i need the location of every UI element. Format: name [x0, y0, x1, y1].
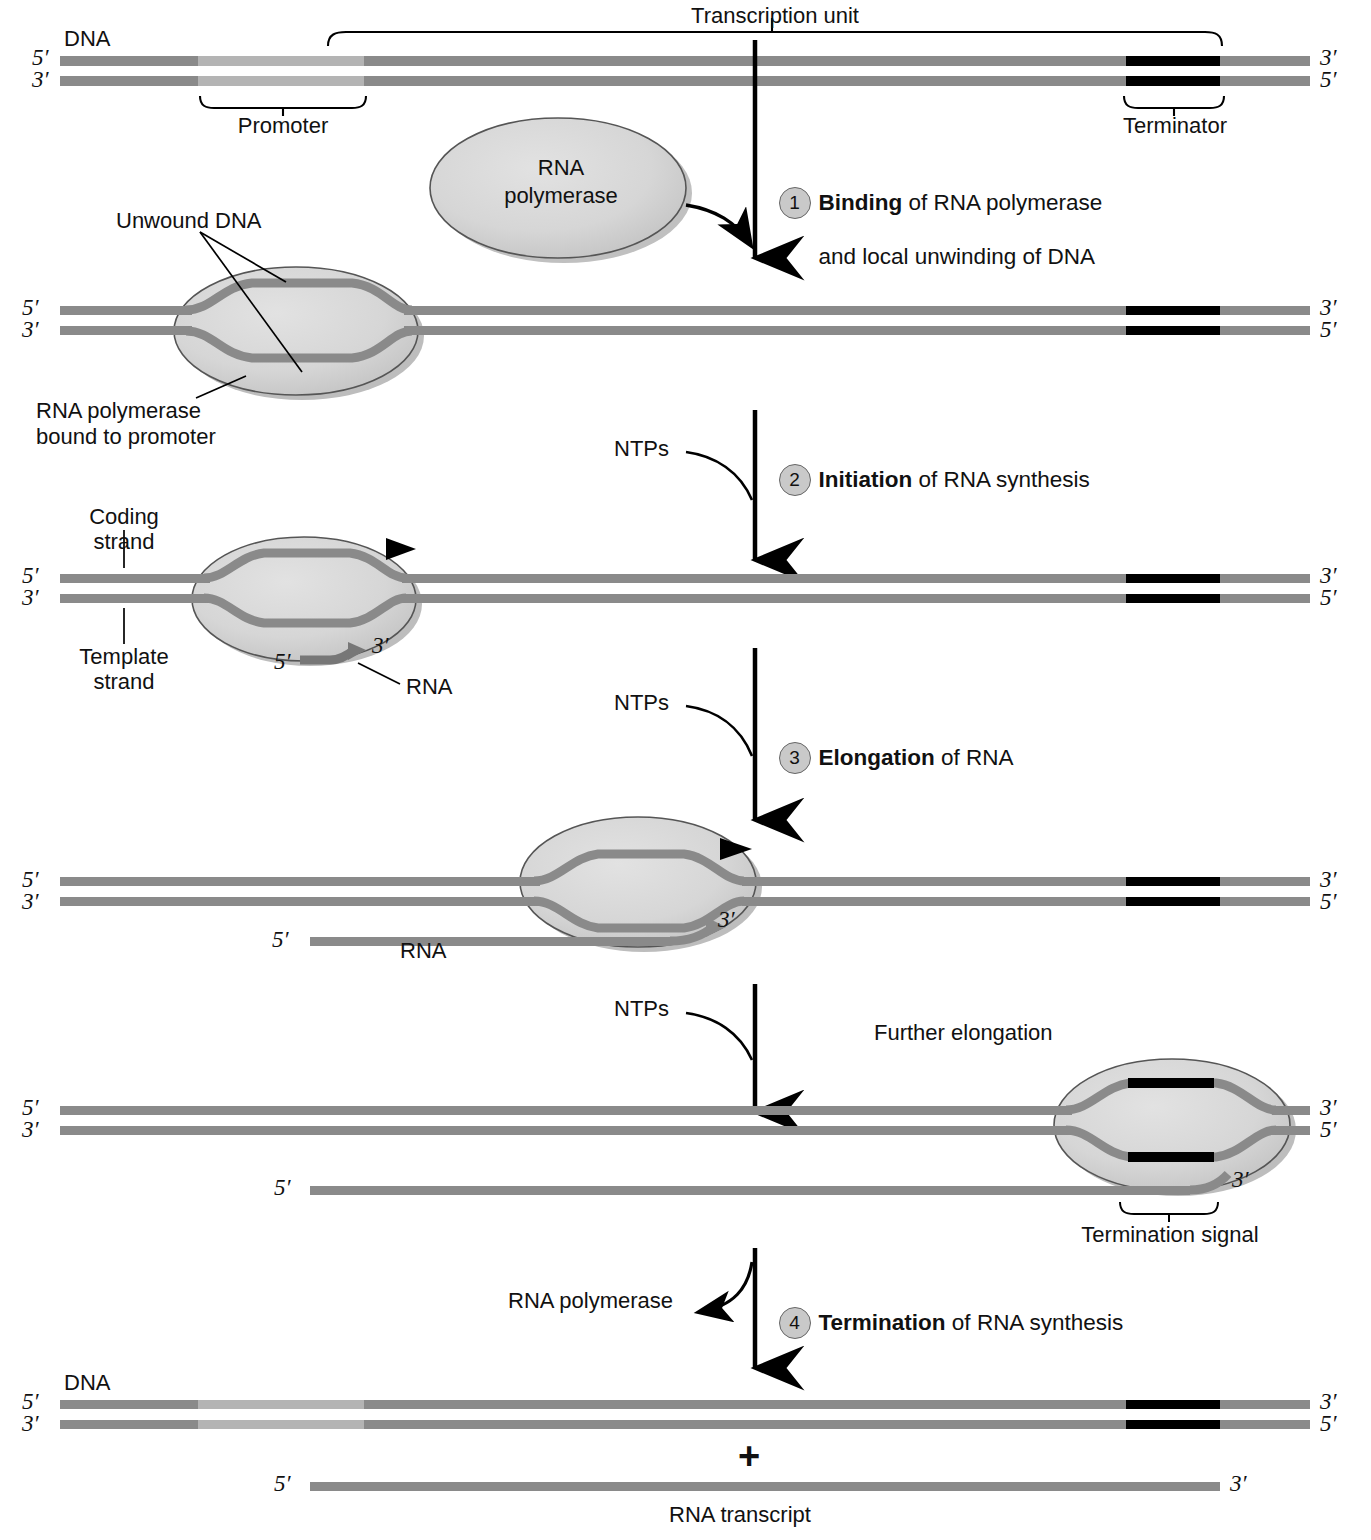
panel3-rna-five-prime: 5′ — [274, 648, 291, 675]
panel1-dna-label: DNA — [64, 26, 110, 52]
panel4-rna-three-prime: 3′ — [718, 906, 735, 933]
step-1-text: Binding of RNA polymerase and local unwi… — [806, 162, 1102, 270]
coding-strand-line2: strand — [58, 529, 190, 555]
step-4-rest1: of RNA synthesis — [946, 1310, 1124, 1335]
panel6-rna-five-prime: 5′ — [274, 1470, 291, 1497]
terminator-label: Terminator — [1090, 113, 1260, 139]
ntps-label-step2: NTPs — [614, 436, 669, 462]
termination-signal-label: Termination signal — [1064, 1222, 1276, 1248]
ntps-label-further: NTPs — [614, 996, 669, 1022]
step-3-rest1: of RNA — [935, 745, 1014, 770]
released-polymerase-label: RNA polymerase — [508, 1288, 673, 1314]
step-3-text: Elongation of RNA — [806, 717, 1014, 771]
step-1-badge: 1 — [766, 160, 811, 219]
rna-transcript-label: RNA transcript — [620, 1502, 860, 1528]
step-4-badge: 4 — [766, 1280, 811, 1339]
template-strand-line1: Template — [58, 644, 190, 670]
panel3-five-prime-right: 5′ — [1320, 584, 1337, 611]
panel6-dna-label: DNA — [64, 1370, 110, 1396]
panel3-rna-label: RNA — [406, 674, 452, 700]
panel4-rna-label: RNA — [400, 938, 446, 964]
step-1-rest1: of RNA polymerase — [902, 190, 1102, 215]
figure-canvas: DNA 5′ 3′ 3′ 5′ Transcription unit Promo… — [0, 0, 1371, 1540]
panel3-rna-three-prime: 3′ — [372, 632, 389, 659]
panel-6-products — [60, 1400, 1310, 1491]
free-polymerase-label-line2: polymerase — [466, 183, 656, 209]
panel6-five-prime-right: 5′ — [1320, 1410, 1337, 1437]
step-2-text: Initiation of RNA synthesis — [806, 439, 1090, 493]
panel6-three-prime-left: 3′ — [22, 1410, 39, 1437]
step-4-text: Termination of RNA synthesis — [806, 1282, 1123, 1336]
bound-polymerase-line1: RNA polymerase — [36, 398, 201, 424]
step-2-bold: Initiation — [819, 467, 913, 492]
panel5-rna-five-prime: 5′ — [274, 1174, 291, 1201]
panel1-three-prime-left: 3′ — [32, 66, 49, 93]
ntps-label-step3: NTPs — [614, 690, 669, 716]
step-2-badge: 2 — [766, 437, 811, 496]
panel4-rna-five-prime: 5′ — [272, 926, 289, 953]
free-polymerase-label-line1: RNA — [466, 155, 656, 181]
panel-1-dna-duplex — [60, 18, 1310, 116]
panel-4-elongation — [60, 817, 1310, 952]
panel2-five-prime-right: 5′ — [1320, 316, 1337, 343]
template-strand-line2: strand — [58, 669, 190, 695]
step-4-arrow — [700, 1248, 755, 1368]
panel4-three-prime-left: 3′ — [22, 888, 39, 915]
panel6-rna-three-prime: 3′ — [1230, 1470, 1247, 1497]
panel3-three-prime-left: 3′ — [22, 584, 39, 611]
panel1-five-prime-right: 5′ — [1320, 66, 1337, 93]
panel5-three-prime-left: 3′ — [22, 1116, 39, 1143]
bound-polymerase-line2: bound to promoter — [36, 424, 216, 450]
step-3-badge: 3 — [766, 715, 811, 774]
panel5-rna-three-prime: 3′ — [1232, 1166, 1249, 1193]
further-elongation-arrow — [686, 984, 755, 1112]
panel4-five-prime-right: 5′ — [1320, 888, 1337, 915]
step-2-rest1: of RNA synthesis — [912, 467, 1090, 492]
panel2-three-prime-left: 3′ — [22, 316, 39, 343]
step-2-arrow — [686, 410, 755, 560]
transcription-unit-label: Transcription unit — [660, 3, 890, 29]
panel-5-termination-signal — [60, 1059, 1310, 1222]
step-1-arrow — [686, 40, 755, 258]
coding-strand-line1: Coding — [58, 504, 190, 530]
step-3-arrow — [686, 648, 755, 820]
unwound-dna-label: Unwound DNA — [116, 208, 262, 234]
step-3-bold: Elongation — [819, 745, 935, 770]
panel-2-bound-polymerase — [60, 232, 1310, 400]
panel-3-initiation — [60, 530, 1310, 684]
step-1-rest2: and local unwinding of DNA — [819, 244, 1095, 269]
promoter-label: Promoter — [200, 113, 366, 139]
further-elongation-label: Further elongation — [874, 1020, 1053, 1046]
panel5-five-prime-right: 5′ — [1320, 1116, 1337, 1143]
step-1-bold: Binding — [819, 190, 903, 215]
plus-sign: + — [738, 1437, 760, 1475]
step-4-bold: Termination — [819, 1310, 946, 1335]
